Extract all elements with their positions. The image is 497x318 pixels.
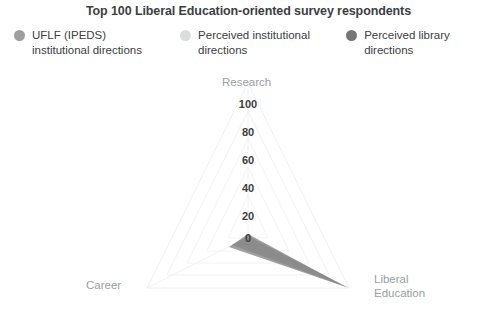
axis-label-liberal-education: Liberal Education [374, 272, 425, 300]
legend-item-label: Perceived institutional directions [198, 28, 310, 57]
radial-tick-40: 40 [228, 182, 268, 194]
radial-tick-60: 60 [228, 154, 268, 166]
legend-item-label: UFLF (IPEDS) institutional directions [32, 28, 142, 57]
legend-swatch-icon [346, 30, 357, 41]
chart-legend: UFLF (IPEDS) institutional directions Pe… [0, 18, 497, 57]
legend-item-perceived-institutional[interactable]: Perceived institutional directions [180, 28, 346, 57]
legend-item-label: Perceived library directions [364, 28, 450, 57]
radial-tick-80: 80 [228, 126, 268, 138]
axis-label-career: Career [86, 278, 121, 292]
legend-swatch-icon [14, 30, 25, 41]
legend-swatch-icon [180, 30, 191, 41]
chart-title: Top 100 Liberal Education-oriented surve… [0, 0, 497, 18]
axis-label-research: Research [222, 75, 271, 89]
radial-tick-20: 20 [228, 210, 268, 222]
radial-tick-0: 0 [228, 232, 268, 244]
legend-item-uflf-ipeds[interactable]: UFLF (IPEDS) institutional directions [14, 28, 180, 57]
radar-chart-plot: Research Career Liberal Education 100 80… [0, 66, 497, 318]
legend-item-perceived-library[interactable]: Perceived library directions [346, 28, 491, 57]
radial-tick-100: 100 [228, 98, 268, 110]
